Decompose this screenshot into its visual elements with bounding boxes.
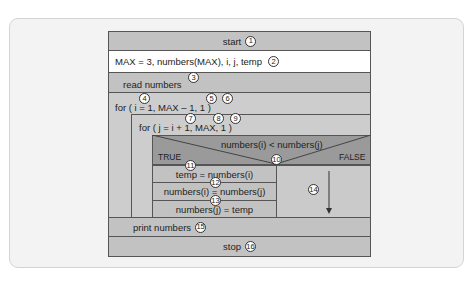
step-number-1: 1 [245,36,256,47]
step-number-3: 3 [188,72,199,83]
step-number-12: 12 [210,177,221,188]
declare-label: MAX = 3, numbers(MAX), i, j, temp [115,56,262,67]
start-label: start [223,36,241,47]
step-number-15: 15 [195,222,206,233]
step-number-5: 5 [206,93,217,104]
start-block: start 1 [109,32,370,51]
stop-block: stop 16 [109,237,370,256]
step-number-7: 7 [185,113,196,124]
outer-loop-block: for ( i = 1, MAX – 1, 1 ) 4 5 6 for ( j … [108,92,371,218]
step-number-9: 9 [230,113,241,124]
step-number-16: 16 [245,241,256,252]
nassi-shneiderman-chart: start 1 MAX = 3, numbers(MAX), i, j, tem… [108,31,371,257]
decision-condition: numbers(i) < numbers(j) [221,139,323,150]
step-number-14: 14 [308,184,319,195]
declare-block: MAX = 3, numbers(MAX), i, j, temp 2 [109,51,370,73]
true-label: TRUE [158,152,181,162]
step-number-4: 4 [139,93,150,104]
false-label: FALSE [339,152,365,162]
step-number-11: 11 [185,160,196,171]
step-number-6: 6 [222,93,233,104]
print-block: print numbers 15 [109,217,370,237]
inner-loop-block: for ( j = i + 1, MAX, 1 ) 7 8 9 numbers(… [131,114,371,218]
step-number-10: 10 [271,154,282,165]
step-number-2: 2 [268,56,279,67]
read-label: read numbers [123,79,182,90]
decision-block: numbers(i) < numbers(j) TRUE FALSE 10 [152,135,371,165]
step-number-8: 8 [213,113,224,124]
read-block: read numbers 3 [109,73,370,93]
print-label: print numbers [133,222,191,233]
step-number-13: 13 [210,195,221,206]
stop-label: stop [223,241,241,252]
outer-loop-label: for ( i = 1, MAX – 1, 1 ) [115,102,211,113]
down-arrow-icon [324,171,334,216]
false-branch-block: 14 [276,165,371,219]
